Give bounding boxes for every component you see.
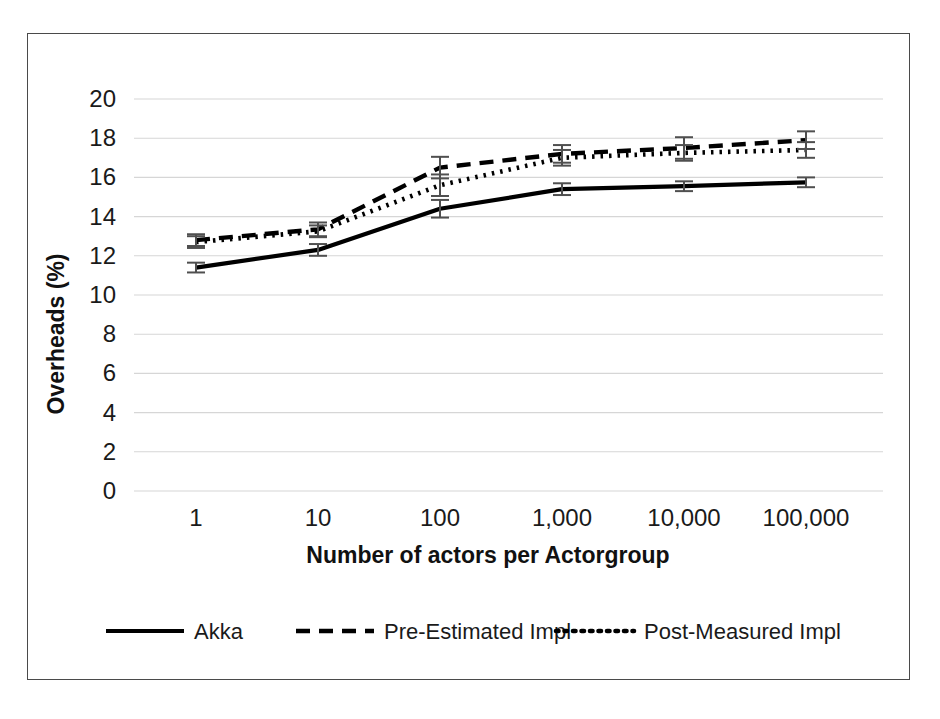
- legend-item[interactable]: Akka: [106, 619, 244, 644]
- series-line: [196, 182, 806, 267]
- series-line: [196, 150, 806, 242]
- y-axis-tick-label: 10: [89, 281, 116, 308]
- y-axis-tick-label: 20: [89, 85, 116, 112]
- y-axis-tick-label: 6: [103, 359, 116, 386]
- y-axis-tick-label: 16: [89, 163, 116, 190]
- x-axis-title: Number of actors per Actorgroup: [306, 542, 669, 568]
- y-axis-tick-labels: 02468101214161820: [89, 85, 116, 504]
- x-axis-tick-label: 1: [189, 504, 202, 531]
- x-axis-tick-label: 1,000: [532, 504, 592, 531]
- y-axis-title: Overheads (%): [43, 253, 69, 414]
- legend-item[interactable]: Pre-Estimated Impl: [296, 619, 571, 644]
- x-axis-tick-label: 10: [305, 504, 332, 531]
- y-axis-tick-label: 12: [89, 242, 116, 269]
- legend-item[interactable]: Post-Measured Impl: [556, 619, 841, 644]
- y-axis-tick-label: 2: [103, 438, 116, 465]
- chart-figure: 02468101214161820 1101001,00010,000100,0…: [27, 33, 910, 680]
- x-axis-tick-labels: 1101001,00010,000100,000: [189, 504, 849, 531]
- legend-label: Akka: [194, 619, 244, 644]
- x-axis-tick-label: 10,000: [647, 504, 720, 531]
- y-axis-tick-label: 14: [89, 203, 116, 230]
- legend-label: Pre-Estimated Impl: [384, 619, 571, 644]
- x-axis-tick-label: 100,000: [763, 504, 850, 531]
- y-axis-tick-label: 8: [103, 320, 116, 347]
- y-axis-tick-label: 18: [89, 124, 116, 151]
- x-axis-tick-label: 100: [420, 504, 460, 531]
- chart-legend: AkkaPre-Estimated ImplPost-Measured Impl: [106, 619, 841, 644]
- y-axis-tick-label: 0: [103, 477, 116, 504]
- data-series-group: [196, 140, 806, 267]
- y-axis-tick-label: 4: [103, 399, 116, 426]
- legend-label: Post-Measured Impl: [644, 619, 841, 644]
- series-line: [196, 140, 806, 240]
- chart-plot-area: 02468101214161820 1101001,00010,000100,0…: [28, 34, 911, 681]
